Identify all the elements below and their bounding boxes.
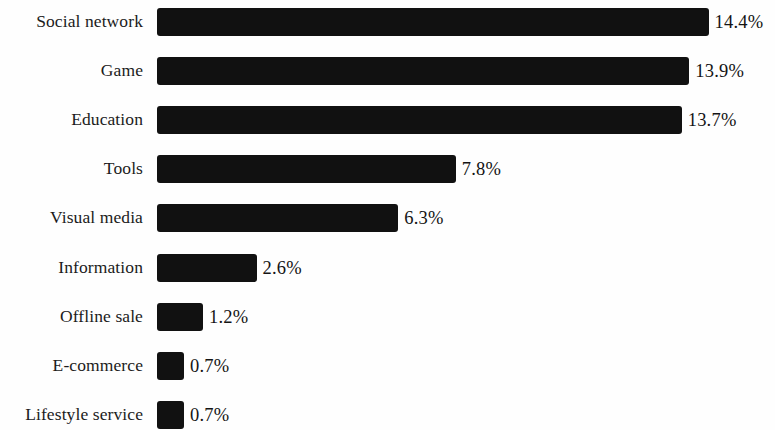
bar-row: Education13.7% [0, 106, 775, 134]
bar [157, 57, 689, 85]
category-label: Social network [36, 13, 143, 31]
bar [157, 8, 709, 36]
bar-value-label: 6.3% [404, 209, 443, 228]
bar-value-label: 2.6% [263, 258, 302, 277]
bar [157, 204, 398, 232]
bar-row: E-commerce0.7% [0, 352, 775, 380]
bar-value-label: 14.4% [715, 13, 764, 32]
horizontal-bar-chart: Social network14.4%Game13.9%Education13.… [0, 0, 775, 430]
category-label: Education [71, 111, 143, 129]
bar-value-label: 7.8% [462, 160, 501, 179]
bar [157, 352, 184, 380]
bar-value-label: 13.9% [695, 62, 744, 81]
bar-row: Offline sale1.2% [0, 303, 775, 331]
category-label: Game [101, 62, 143, 80]
bar-row: Information2.6% [0, 254, 775, 282]
bar [157, 303, 203, 331]
bar-value-label: 0.7% [190, 406, 229, 425]
category-label: Information [58, 259, 143, 277]
category-label: Visual media [50, 210, 143, 228]
bar-row: Lifestyle service0.7% [0, 401, 775, 429]
bar-value-label: 1.2% [209, 307, 248, 326]
category-label: Tools [104, 161, 143, 179]
category-label: Lifestyle service [25, 406, 143, 424]
category-label: E-commerce [53, 357, 143, 375]
bar-row: Visual media6.3% [0, 204, 775, 232]
bar-value-label: 0.7% [190, 356, 229, 375]
category-label: Offline sale [60, 308, 143, 326]
bar [157, 106, 682, 134]
bar-row: Tools7.8% [0, 155, 775, 183]
bar [157, 401, 184, 429]
bar-row: Game13.9% [0, 57, 775, 85]
bar-row: Social network14.4% [0, 8, 775, 36]
bar-value-label: 13.7% [688, 111, 737, 130]
bar [157, 155, 456, 183]
bar [157, 254, 257, 282]
